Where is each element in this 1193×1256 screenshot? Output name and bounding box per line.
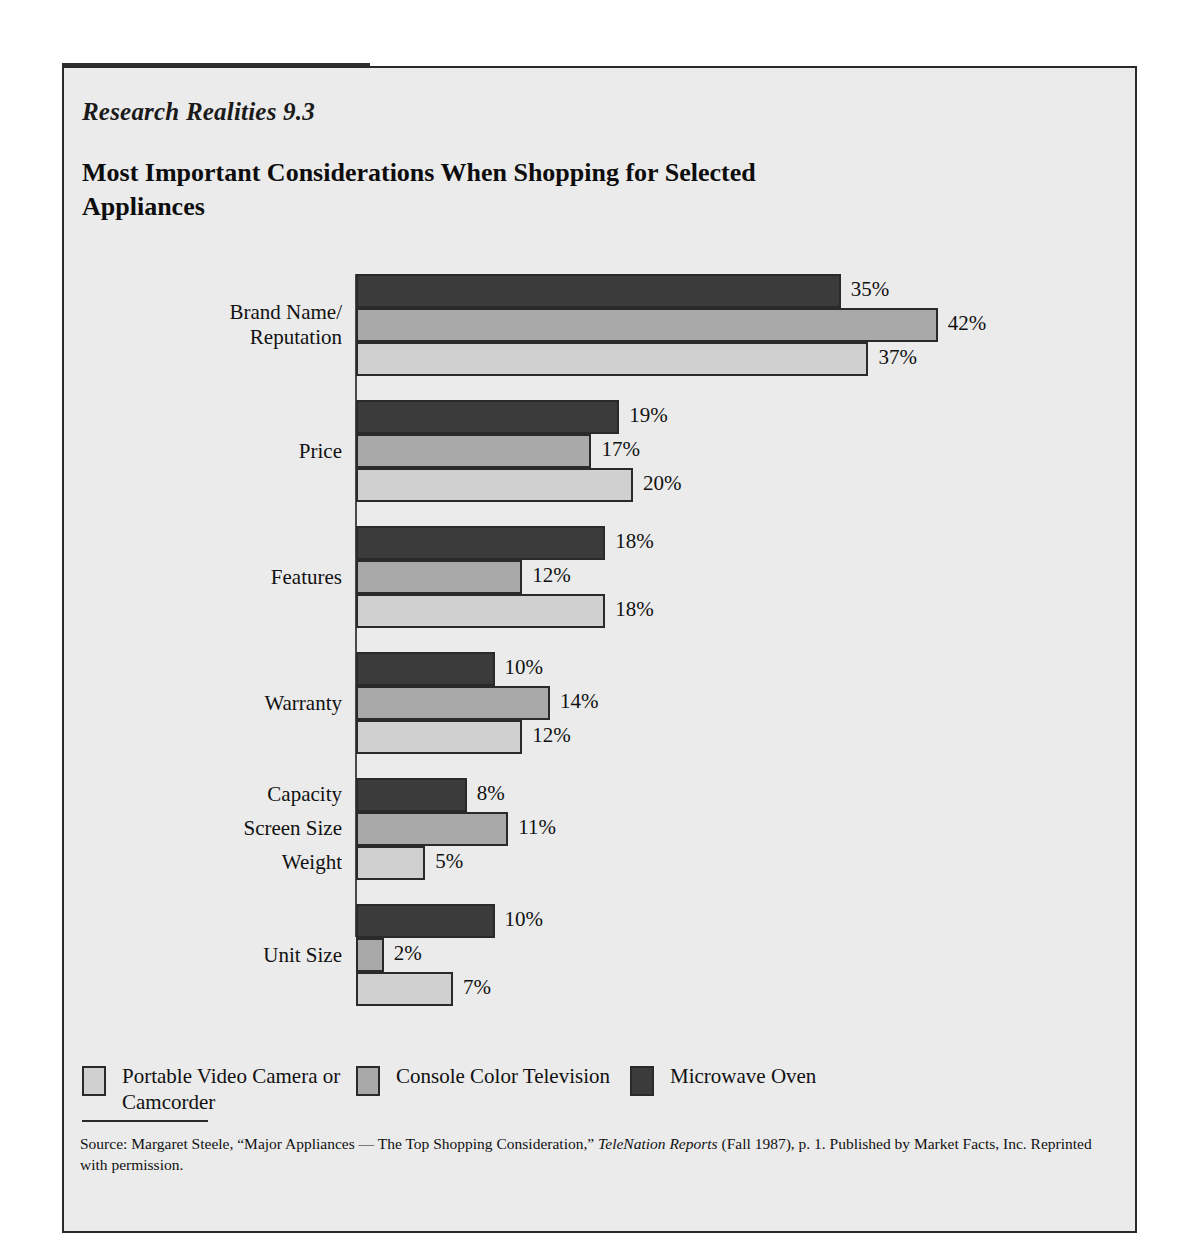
bar-row: 12% (356, 720, 1116, 754)
bar-row: 10% (356, 904, 1116, 938)
bar (356, 594, 605, 628)
chart-group: Price19%17%20% (64, 400, 1135, 502)
bar-row: 2% (356, 938, 1116, 972)
bar-value-label: 35% (851, 277, 890, 302)
bar (356, 812, 508, 846)
category-label-line: Warranty (112, 691, 342, 716)
source-divider (82, 1120, 208, 1122)
bar-row: 42% (356, 308, 1116, 342)
bar (356, 560, 522, 594)
bar-row: 35% (356, 274, 1116, 308)
bar-value-label: 8% (477, 781, 505, 806)
category-label-line: Price (112, 439, 342, 464)
category-label: Capacity (112, 782, 342, 807)
bar (356, 846, 425, 880)
bar (356, 274, 841, 308)
bar-row: 14% (356, 686, 1116, 720)
bar (356, 308, 938, 342)
source-prefix: Source: Margaret Steele, “Major Applianc… (80, 1135, 598, 1152)
category-label-line: Unit Size (112, 943, 342, 968)
bar-value-label: 7% (463, 975, 491, 1000)
chart-group: Brand Name/Reputation35%42%37% (64, 274, 1135, 376)
chart-group: Warranty10%14%12% (64, 652, 1135, 754)
bar-row: 7% (356, 972, 1116, 1006)
bar-value-label: 20% (643, 471, 682, 496)
legend-label: Microwave Oven (670, 1063, 910, 1089)
bar (356, 526, 605, 560)
bar (356, 342, 868, 376)
category-label: Screen Size (112, 816, 342, 841)
bar-value-label: 12% (532, 563, 571, 588)
bar-value-label: 42% (948, 311, 987, 336)
bar (356, 720, 522, 754)
bar-value-label: 12% (532, 723, 571, 748)
legend-label: Console Color Television (396, 1063, 636, 1089)
bar-value-label: 11% (518, 815, 556, 840)
page-title: Most Important Considerations When Shopp… (82, 156, 802, 224)
bar (356, 938, 384, 972)
bar-row: 17% (356, 434, 1116, 468)
bar-value-label: 17% (601, 437, 640, 462)
bar-value-label: 19% (629, 403, 668, 428)
category-label-line: Brand Name/ (112, 300, 342, 325)
bar (356, 686, 550, 720)
source-publication: TeleNation Reports (598, 1135, 718, 1152)
bar-row: 10% (356, 652, 1116, 686)
category-label: Features (112, 565, 342, 590)
category-label: Weight (112, 850, 342, 875)
chart-group: Unit Size10%2%7% (64, 904, 1135, 1006)
bar (356, 434, 591, 468)
category-label: Unit Size (112, 943, 342, 968)
bar-row: 19% (356, 400, 1116, 434)
category-label-line: Reputation (112, 325, 342, 350)
bar-row: 5% (356, 846, 1116, 880)
bar-value-label: 18% (615, 597, 654, 622)
bar (356, 778, 467, 812)
bar-value-label: 2% (394, 941, 422, 966)
category-label: Warranty (112, 691, 342, 716)
exhibit-frame: Research Realities 9.3 Most Important Co… (62, 66, 1137, 1233)
bar-value-label: 14% (560, 689, 599, 714)
bar (356, 904, 495, 938)
bar-value-label: 37% (878, 345, 917, 370)
bar-row: 8% (356, 778, 1116, 812)
bar-value-label: 18% (615, 529, 654, 554)
legend-swatch-icon (82, 1066, 106, 1096)
bar-value-label: 10% (505, 907, 544, 932)
source-note: Source: Margaret Steele, “Major Applianc… (80, 1133, 1120, 1175)
chart-group: CapacityScreen SizeWeight8%11%5% (64, 778, 1135, 880)
legend-swatch-icon (356, 1066, 380, 1096)
bar-value-label: 5% (435, 849, 463, 874)
bar (356, 652, 495, 686)
bar (356, 400, 619, 434)
legend-label: Portable Video Camera or Camcorder (122, 1063, 362, 1115)
category-label-line: Features (112, 565, 342, 590)
chart-group: Features18%12%18% (64, 526, 1135, 628)
category-label: Price (112, 439, 342, 464)
bar-value-label: 10% (505, 655, 544, 680)
bar-row: 20% (356, 468, 1116, 502)
bar-chart: Brand Name/Reputation35%42%37%Price19%17… (64, 258, 1135, 1018)
legend-swatch-icon (630, 1066, 654, 1096)
bar (356, 972, 453, 1006)
bar-row: 37% (356, 342, 1116, 376)
bar (356, 468, 633, 502)
bar-row: 11% (356, 812, 1116, 846)
bar-row: 12% (356, 560, 1116, 594)
category-label: Brand Name/Reputation (112, 300, 342, 350)
page-root: Research Realities 9.3 Most Important Co… (0, 0, 1193, 1256)
bar-row: 18% (356, 594, 1116, 628)
bar-row: 18% (356, 526, 1116, 560)
exhibit-number: Research Realities 9.3 (82, 98, 315, 126)
